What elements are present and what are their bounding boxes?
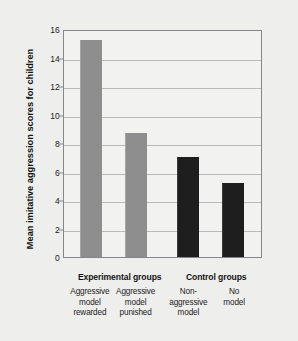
category-labels: AggressivemodelrewardedAggressivemodelpu…: [63, 287, 262, 332]
bar-2: [125, 133, 147, 257]
y-axis-title: Mean imitative aggression scores for chi…: [25, 37, 35, 261]
category-label-3-line-3: model: [159, 308, 217, 319]
bar-3: [177, 157, 199, 257]
y-tick-label-16: 16: [50, 26, 60, 35]
y-tick-label-0: 0: [55, 254, 60, 263]
bar-1: [80, 40, 102, 257]
category-label-4-line-1: No: [205, 287, 263, 298]
category-label-2: Aggressivemodelpunished: [107, 287, 165, 319]
category-label-4: Nomodel: [205, 287, 263, 308]
category-label-2-line-2: model: [107, 298, 165, 309]
bar-4: [222, 183, 244, 257]
category-label-2-line-1: Aggressive: [107, 287, 165, 298]
group-headers: Experimental groupsControl groups: [63, 272, 262, 284]
bandura-aggression-bar-chart: Mean imitative aggression scores for chi…: [0, 0, 298, 341]
category-label-2-line-3: punished: [107, 308, 165, 319]
plot-area: [63, 30, 262, 258]
group-header-2: Control groups: [186, 272, 247, 282]
group-header-1: Experimental groups: [78, 272, 162, 282]
category-label-4-line-2: model: [205, 298, 263, 309]
y-axis: 0246810121416: [38, 30, 60, 258]
